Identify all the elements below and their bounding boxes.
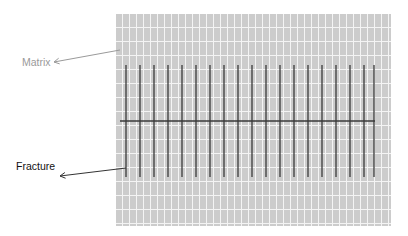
matrix-arrow [54,50,120,64]
matrix-label: Matrix [22,57,51,68]
fracture-label: Fracture [16,161,55,172]
fracture-matrix-diagram [0,0,408,236]
annotation-arrows [54,50,126,178]
